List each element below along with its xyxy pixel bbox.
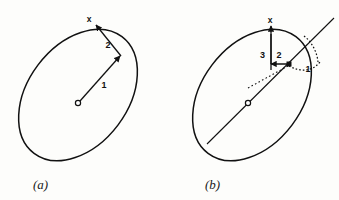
point-marker-b xyxy=(287,62,292,67)
panel-b: x 3 2 1 (b) xyxy=(168,7,336,192)
vector-1-label-a: 1 xyxy=(101,80,106,90)
center-marker-b xyxy=(245,100,250,105)
vector-1-label-b: 1 xyxy=(305,64,310,74)
vector-1-arrow-a xyxy=(80,56,120,101)
axis-x-label-b: x xyxy=(268,15,273,25)
ellipse-outline-b xyxy=(168,7,336,184)
center-marker-a xyxy=(75,100,80,105)
panel-a: x 2 1 (a) xyxy=(0,7,162,192)
vector-2-label-a: 2 xyxy=(105,40,110,50)
axis-x-label-a: x xyxy=(87,14,92,24)
ellipse-outline-a xyxy=(0,7,162,184)
panel-a-caption: (a) xyxy=(33,177,48,192)
diagram-svg: x 2 1 (a) xyxy=(0,0,339,200)
vector-2-label-b: 2 xyxy=(276,50,281,60)
figure-canvas: x 2 1 (a) xyxy=(0,0,339,200)
vector-3-label-b: 3 xyxy=(260,50,265,60)
panel-b-caption: (b) xyxy=(205,177,220,192)
